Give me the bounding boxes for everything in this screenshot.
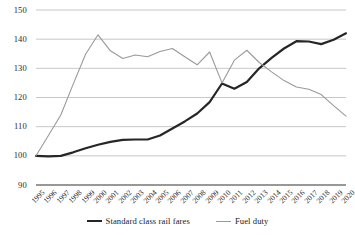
line-chart-plot [0, 0, 355, 235]
chart-container: 90100110120130140150 1995199619971998199… [0, 0, 355, 235]
gridlines [36, 10, 346, 156]
legend-swatch-icon [87, 220, 102, 222]
y-tick-label: 150 [5, 5, 27, 15]
y-tick-label: 130 [5, 63, 27, 73]
y-tick-label: 100 [5, 150, 27, 160]
chart-legend: Standard class rail faresFuel duty [0, 216, 355, 226]
legend-label: Standard class rail fares [106, 216, 190, 226]
legend-entry: Standard class rail fares [87, 216, 190, 226]
legend-label: Fuel duty [235, 216, 269, 226]
y-tick-label: 120 [5, 92, 27, 102]
legend-swatch-icon [216, 221, 231, 222]
series-line-fuel-duty [36, 35, 346, 156]
y-tick-label: 140 [5, 34, 27, 44]
y-tick-label: 110 [5, 121, 27, 131]
y-tick-label: 90 [5, 180, 27, 190]
legend-entry: Fuel duty [216, 216, 269, 226]
data-series-group [36, 33, 346, 156]
series-line-rail-fares [36, 33, 346, 156]
